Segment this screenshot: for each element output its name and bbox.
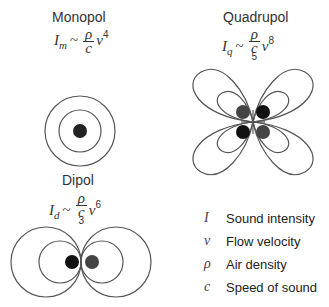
formula-exponent: 4 xyxy=(103,29,109,40)
dipole-formula: Id~ρc3v6 xyxy=(49,192,101,232)
formula-denominator: c5 xyxy=(249,42,260,68)
formula-exponent: 8 xyxy=(269,35,275,46)
monopole-source xyxy=(73,124,87,138)
formula-operator: ~ xyxy=(63,202,71,218)
legend-symbol: v xyxy=(200,233,226,249)
legend-symbol: c xyxy=(200,279,226,295)
legend-item-speed: c Speed of sound xyxy=(200,277,317,297)
formula-operator: ~ xyxy=(236,38,244,54)
formula-variable: v xyxy=(96,32,103,48)
formula-denominator: c3 xyxy=(76,206,87,232)
formula-fraction: ρc xyxy=(83,28,94,55)
formula-operator: ~ xyxy=(70,32,78,48)
legend-item-intensity: I Sound intensity xyxy=(200,208,317,228)
formula-exponent: 6 xyxy=(96,199,102,210)
quadrupole-pattern xyxy=(193,69,313,174)
legend-label: Speed of sound xyxy=(226,280,317,295)
formula-subscript: q xyxy=(227,45,233,57)
quadrupole-title: Quadrupol xyxy=(223,9,288,25)
legend-label: Flow velocity xyxy=(226,234,300,249)
dipole-source-positive xyxy=(85,255,99,269)
legend-label: Air density xyxy=(226,257,287,272)
formula-variable: v xyxy=(89,202,96,218)
quadrupole-formula: Iq~ρc5v8 xyxy=(222,28,274,68)
formula-fraction: ρc3 xyxy=(76,192,87,232)
dipole-pattern xyxy=(11,227,151,297)
monopole-formula: Im~ρcv4 xyxy=(54,28,109,55)
legend-symbol: ρ xyxy=(200,256,226,272)
dipole-title: Dipol xyxy=(62,172,94,188)
legend-symbol: I xyxy=(200,210,226,226)
formula-variable: v xyxy=(262,38,269,54)
formula-subscript: m xyxy=(59,39,67,51)
legend-item-density: ρ Air density xyxy=(200,254,317,274)
formula-denominator: c xyxy=(83,42,94,55)
monopole-title: Monopol xyxy=(52,9,106,25)
formula-subscript: d xyxy=(54,209,60,221)
legend-label: Sound intensity xyxy=(226,211,315,226)
legend: I Sound intensity v Flow velocity ρ Air … xyxy=(200,208,317,300)
legend-item-velocity: v Flow velocity xyxy=(200,231,317,251)
formula-fraction: ρc5 xyxy=(249,28,260,68)
dipole-source-negative xyxy=(65,255,79,269)
